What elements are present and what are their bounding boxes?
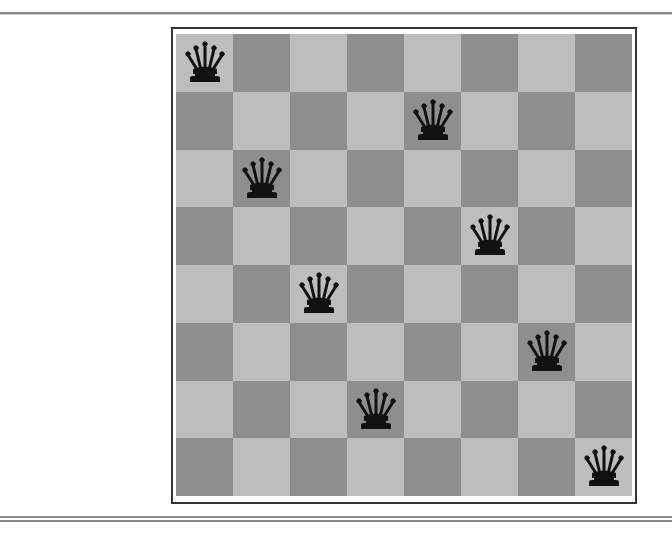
- board-square[interactable]: [575, 438, 632, 496]
- board-square[interactable]: [233, 381, 290, 439]
- board-square[interactable]: [575, 381, 632, 439]
- queen-icon[interactable]: [184, 40, 226, 86]
- board-square[interactable]: [233, 207, 290, 265]
- board-square[interactable]: [461, 150, 518, 208]
- board-square[interactable]: [575, 150, 632, 208]
- queen-icon[interactable]: [412, 98, 454, 144]
- board-square[interactable]: [233, 438, 290, 496]
- board-square[interactable]: [461, 265, 518, 323]
- board-square[interactable]: [461, 207, 518, 265]
- board-square[interactable]: [575, 92, 632, 150]
- board-square[interactable]: [290, 92, 347, 150]
- board-square[interactable]: [404, 265, 461, 323]
- board-square[interactable]: [290, 150, 347, 208]
- board-square[interactable]: [347, 34, 404, 92]
- board-square[interactable]: [233, 150, 290, 208]
- board-square[interactable]: [347, 150, 404, 208]
- board-square[interactable]: [176, 438, 233, 496]
- board-square[interactable]: [233, 323, 290, 381]
- board-square[interactable]: [518, 34, 575, 92]
- bottom-divider: [0, 516, 672, 522]
- board-square[interactable]: [461, 323, 518, 381]
- board-square[interactable]: [233, 265, 290, 323]
- board-square[interactable]: [518, 92, 575, 150]
- board-square[interactable]: [404, 323, 461, 381]
- board-square[interactable]: [233, 92, 290, 150]
- queen-icon[interactable]: [583, 444, 625, 490]
- board-square[interactable]: [290, 265, 347, 323]
- board-square[interactable]: [404, 381, 461, 439]
- board-square[interactable]: [233, 34, 290, 92]
- board-square[interactable]: [461, 92, 518, 150]
- board-square[interactable]: [176, 323, 233, 381]
- board-square[interactable]: [176, 150, 233, 208]
- board-square[interactable]: [176, 34, 233, 92]
- board-square[interactable]: [575, 34, 632, 92]
- board-square[interactable]: [404, 150, 461, 208]
- board-square[interactable]: [404, 34, 461, 92]
- board-square[interactable]: [461, 34, 518, 92]
- chessboard: [176, 34, 632, 496]
- board-square[interactable]: [290, 438, 347, 496]
- top-divider: [0, 12, 672, 15]
- board-square[interactable]: [461, 438, 518, 496]
- board-square[interactable]: [176, 265, 233, 323]
- board-square[interactable]: [461, 381, 518, 439]
- board-square[interactable]: [290, 323, 347, 381]
- board-square[interactable]: [290, 207, 347, 265]
- board-square[interactable]: [347, 323, 404, 381]
- board-square[interactable]: [404, 92, 461, 150]
- board-square[interactable]: [404, 438, 461, 496]
- board-square[interactable]: [518, 438, 575, 496]
- board-square[interactable]: [176, 92, 233, 150]
- queen-icon[interactable]: [298, 271, 340, 317]
- board-square[interactable]: [404, 207, 461, 265]
- board-square[interactable]: [347, 92, 404, 150]
- board-square[interactable]: [347, 381, 404, 439]
- board-square[interactable]: [518, 323, 575, 381]
- board-square[interactable]: [290, 381, 347, 439]
- board-square[interactable]: [176, 207, 233, 265]
- queen-icon[interactable]: [469, 213, 511, 259]
- board-square[interactable]: [347, 438, 404, 496]
- board-square[interactable]: [518, 265, 575, 323]
- queen-icon[interactable]: [355, 387, 397, 433]
- board-square[interactable]: [518, 150, 575, 208]
- board-square[interactable]: [290, 34, 347, 92]
- board-square[interactable]: [176, 381, 233, 439]
- board-square[interactable]: [347, 207, 404, 265]
- board-square[interactable]: [518, 381, 575, 439]
- board-square[interactable]: [518, 207, 575, 265]
- board-square[interactable]: [575, 265, 632, 323]
- board-square[interactable]: [575, 207, 632, 265]
- board-square[interactable]: [347, 265, 404, 323]
- queen-icon[interactable]: [241, 156, 283, 202]
- board-square[interactable]: [575, 323, 632, 381]
- queen-icon[interactable]: [526, 329, 568, 375]
